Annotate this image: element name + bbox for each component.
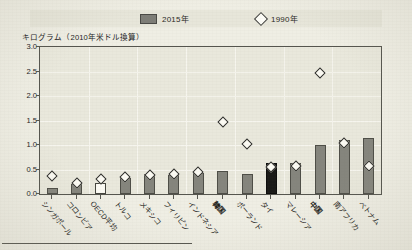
gridline-horizontal xyxy=(40,145,381,146)
y-tick-label: 3.0 xyxy=(18,42,37,51)
legend-label-2015: 2015年 xyxy=(162,13,189,24)
x-tick-label-タイ: タイ xyxy=(259,198,277,216)
legend-entry-2015: 2015年 xyxy=(140,10,189,27)
bar-OECD平均 xyxy=(95,183,106,194)
bar-韓国 xyxy=(217,171,228,194)
diamond-marker-icon xyxy=(254,11,268,25)
y-tick-label: 0.0 xyxy=(18,189,37,198)
x-tick-label-メキシコ: メキシコ xyxy=(137,198,164,227)
gridline-vertical xyxy=(89,47,90,194)
y-tick-mark xyxy=(36,120,39,121)
gridline-vertical xyxy=(332,47,333,194)
bar-ポーランド xyxy=(242,174,253,194)
bar-swatch-icon xyxy=(140,14,157,24)
y-axis-tick-labels: 3.02.52.01.51.00.50.0 xyxy=(18,46,37,195)
gridline-horizontal xyxy=(40,121,381,122)
diamond-marker-シンガポール xyxy=(47,171,58,182)
y-axis-caption: キログラム（2010年米ドル換算） xyxy=(22,31,145,42)
legend-label-1990: 1990年 xyxy=(271,13,298,24)
diamond-marker-ポーランド xyxy=(241,138,252,149)
diamond-marker-韓国 xyxy=(217,116,228,127)
y-tick-label: 0.5 xyxy=(18,164,37,173)
plot-area xyxy=(39,46,382,195)
legend-entry-1990: 1990年 xyxy=(256,10,298,27)
y-tick-mark xyxy=(36,144,39,145)
y-tick-label: 1.0 xyxy=(18,140,37,149)
gridline-horizontal xyxy=(40,96,381,97)
gridline-vertical xyxy=(235,47,236,194)
x-axis-tick-labels: シンガポールコロンビアOECD平均トルコメキシコフィリピンインドネシア韓国ポーラ… xyxy=(39,198,382,248)
y-tick-mark xyxy=(36,46,39,47)
y-tick-mark xyxy=(36,95,39,96)
y-tick-label: 2.0 xyxy=(18,91,37,100)
gridline-horizontal xyxy=(40,72,381,73)
y-tick-label: 2.5 xyxy=(18,66,37,75)
y-axis-tick-marks xyxy=(36,46,40,195)
gridline-horizontal xyxy=(40,170,381,171)
y-tick-label: 1.5 xyxy=(18,115,37,124)
chart-legend: 2015年 1990年 xyxy=(30,10,382,27)
bar-シンガポール xyxy=(47,188,58,194)
y-tick-mark xyxy=(36,169,39,170)
x-tick-label-韓国: 韓国 xyxy=(210,198,228,216)
bar-中国 xyxy=(315,145,326,194)
diamond-marker-中国 xyxy=(314,67,325,78)
x-tick-label-中国: 中国 xyxy=(308,198,326,216)
gridline-vertical xyxy=(284,47,285,194)
x-tick-label-トルコ: トルコ xyxy=(113,198,135,221)
y-tick-mark xyxy=(36,71,39,72)
gridline-vertical xyxy=(137,47,138,194)
gridline-vertical xyxy=(186,47,187,194)
y-tick-mark xyxy=(36,193,39,194)
footer-rule xyxy=(2,243,192,244)
